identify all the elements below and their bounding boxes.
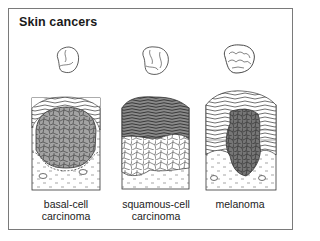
squamous-cell-panel: [122, 47, 189, 189]
label-basal-cell: basal-cell carcinoma: [21, 198, 111, 222]
label-basal-cell-line2: carcinoma: [21, 210, 111, 222]
label-squamous-cell-line1: squamous-cell: [111, 198, 201, 210]
label-basal-cell-line1: basal-cell: [21, 198, 111, 210]
label-melanoma: melanoma: [195, 198, 285, 210]
basal-cell-panel: [32, 47, 100, 190]
melanoma-panel: [206, 45, 276, 190]
label-melanoma-line1: melanoma: [195, 198, 285, 210]
label-squamous-cell-line2: carcinoma: [111, 210, 201, 222]
label-squamous-cell: squamous-cell carcinoma: [111, 198, 201, 222]
